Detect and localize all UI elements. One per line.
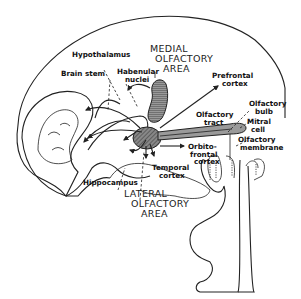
lateral-area-line-3: AREA	[141, 208, 168, 219]
label-olfactory-membrane-2: membrane	[240, 143, 284, 152]
label-olfactory-bulb-2: bulb	[255, 107, 273, 116]
lateral-olfactory-area-region	[133, 127, 161, 149]
medial-area-line-3: AREA	[163, 63, 190, 74]
label-orbitofrontal-3: cortex	[194, 157, 220, 166]
label-prefrontal-2: cortex	[222, 79, 248, 88]
label-hypothalamus: Hypothalamus	[72, 50, 130, 59]
label-temporal-2: cortex	[159, 171, 185, 180]
label-habenular-2: nuclei	[125, 75, 149, 84]
label-hippocampus: Hippocampus	[83, 178, 138, 187]
medial-olfactory-area-region	[148, 80, 168, 122]
label-mitral-2: cell	[251, 125, 265, 134]
label-olfactory-tract-2: tract	[204, 118, 224, 127]
olfactory-diagram: Hypothalamus Brain stem Habenular nuclei…	[0, 0, 301, 299]
label-brain-stem: Brain stem	[61, 69, 105, 78]
